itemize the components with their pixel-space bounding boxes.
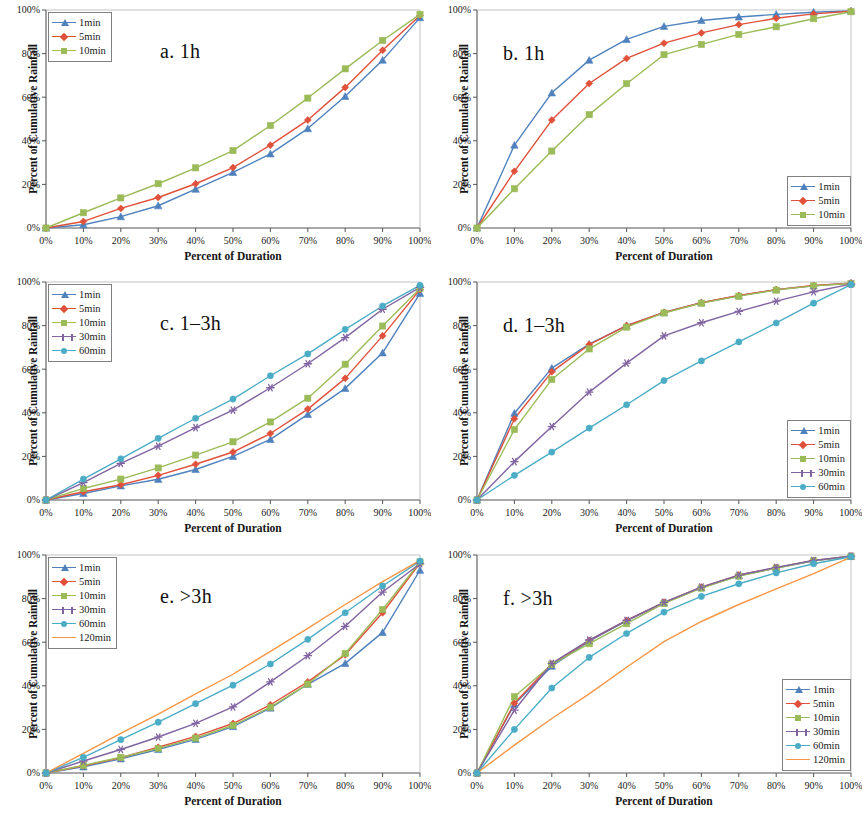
x-tick-label: 0%	[39, 235, 52, 246]
x-axis-label: Percent of Duration	[46, 522, 420, 534]
plot-area-d: 0%10%20%30%40%50%60%70%80%90%100%0%20%40…	[431, 272, 862, 544]
legend-item-30min[interactable]: 30min	[52, 330, 106, 344]
figure-panel-grid: 0%10%20%30%40%50%60%70%80%90%100%0%20%40…	[0, 0, 862, 817]
x-tick-label: 100%	[408, 780, 431, 791]
legend-item-5min[interactable]: 5min	[791, 438, 845, 452]
x-axis-label: Percent of Duration	[46, 250, 420, 262]
legend-label: 5min	[818, 439, 840, 451]
y-axis-label: Percent of Cumulative Rainfall	[458, 296, 470, 486]
x-tick-label: 100%	[408, 235, 431, 246]
legend-label: 60min	[79, 345, 106, 357]
x-tick-label: 60%	[692, 235, 710, 246]
legend-swatch-icon-1min	[52, 562, 76, 574]
legend-label: 60min	[79, 618, 106, 630]
legend-item-60min[interactable]: 60min	[52, 344, 106, 358]
legend-label: 10min	[79, 590, 106, 602]
legend-item-30min[interactable]: 30min	[791, 466, 845, 480]
legend-swatch-icon-1min	[791, 425, 815, 437]
panel-title-e: e. >3h	[160, 585, 212, 608]
legend-item-1min[interactable]: 1min	[786, 683, 845, 697]
y-axis-label: Percent of Cumulative Rainfall	[27, 24, 39, 214]
legend-item-5min[interactable]: 5min	[52, 575, 111, 589]
x-tick-label: 90%	[804, 507, 822, 518]
legend-swatch-icon-60min	[52, 618, 76, 630]
x-tick-label: 70%	[299, 235, 317, 246]
x-tick-label: 50%	[224, 507, 242, 518]
x-tick-label: 0%	[39, 780, 52, 791]
legend-label: 10min	[818, 453, 845, 465]
legend-label: 120min	[79, 632, 111, 644]
y-tick-label: 0%	[27, 767, 40, 778]
legend-label: 30min	[79, 604, 106, 616]
chart-panel-f: 0%10%20%30%40%50%60%70%80%90%100%0%20%40…	[431, 545, 862, 817]
legend-label: 30min	[818, 467, 845, 479]
x-tick-label: 60%	[261, 780, 279, 791]
legend-item-120min[interactable]: 120min	[52, 631, 111, 645]
x-tick-label: 80%	[336, 507, 354, 518]
legend-item-30min[interactable]: 30min	[52, 603, 111, 617]
legend-item-10min[interactable]: 10min	[791, 452, 845, 466]
y-axis-label: Percent of Cumulative Rainfall	[458, 569, 470, 759]
legend-item-10min[interactable]: 10min	[786, 711, 845, 725]
x-tick-label: 20%	[112, 507, 130, 518]
legend-swatch-icon-30min	[52, 331, 76, 343]
x-tick-label: 80%	[336, 780, 354, 791]
legend-item-10min[interactable]: 10min	[52, 316, 106, 330]
x-tick-label: 10%	[74, 235, 92, 246]
legend-item-1min[interactable]: 1min	[791, 180, 845, 194]
legend-swatch-icon-10min	[786, 712, 810, 724]
x-tick-label: 90%	[804, 780, 822, 791]
legend-label: 30min	[813, 726, 840, 738]
legend-item-120min[interactable]: 120min	[786, 753, 845, 767]
x-tick-label: 60%	[692, 507, 710, 518]
legend-item-5min[interactable]: 5min	[52, 30, 106, 44]
legend-item-60min[interactable]: 60min	[791, 480, 845, 494]
legend-item-5min[interactable]: 5min	[791, 194, 845, 208]
legend-c: 1min5min10min30min60min	[48, 284, 112, 362]
legend-item-5min[interactable]: 5min	[786, 697, 845, 711]
y-axis-label: Percent of Cumulative Rainfall	[27, 569, 39, 759]
legend-label: 10min	[813, 712, 840, 724]
legend-item-10min[interactable]: 10min	[52, 44, 106, 58]
legend-label: 5min	[813, 698, 835, 710]
x-tick-label: 0%	[470, 235, 483, 246]
x-tick-label: 90%	[373, 780, 391, 791]
legend-label: 1min	[79, 289, 101, 301]
legend-label: 60min	[818, 481, 845, 493]
legend-label: 30min	[79, 331, 106, 343]
legend-item-10min[interactable]: 10min	[52, 589, 111, 603]
legend-swatch-icon-120min	[52, 632, 76, 644]
legend-item-30min[interactable]: 30min	[786, 725, 845, 739]
x-axis-label: Percent of Duration	[477, 522, 851, 534]
legend-swatch-icon-5min	[52, 31, 76, 43]
legend-item-1min[interactable]: 1min	[791, 424, 845, 438]
x-tick-label: 50%	[655, 780, 673, 791]
x-tick-label: 50%	[224, 235, 242, 246]
legend-label: 1min	[79, 17, 101, 29]
x-tick-label: 10%	[74, 780, 92, 791]
x-tick-label: 60%	[261, 235, 279, 246]
panel-title-c: c. 1–3h	[160, 312, 221, 335]
legend-item-60min[interactable]: 60min	[52, 617, 111, 631]
legend-item-1min[interactable]: 1min	[52, 561, 111, 575]
chart-panel-d: 0%10%20%30%40%50%60%70%80%90%100%0%20%40…	[431, 272, 862, 544]
legend-swatch-icon-10min	[791, 453, 815, 465]
legend-label: 120min	[813, 754, 845, 766]
legend-swatch-icon-60min	[786, 740, 810, 752]
legend-item-10min[interactable]: 10min	[791, 208, 845, 222]
x-tick-label: 30%	[149, 780, 167, 791]
legend-item-5min[interactable]: 5min	[52, 302, 106, 316]
x-tick-label: 80%	[767, 235, 785, 246]
legend-item-60min[interactable]: 60min	[786, 739, 845, 753]
x-tick-label: 0%	[470, 507, 483, 518]
x-tick-label: 20%	[543, 780, 561, 791]
legend-item-1min[interactable]: 1min	[52, 288, 106, 302]
plot-area-b: 0%10%20%30%40%50%60%70%80%90%100%0%20%40…	[431, 0, 862, 272]
panel-title-a: a. 1h	[160, 40, 200, 63]
legend-label: 1min	[79, 562, 101, 574]
x-tick-label: 70%	[299, 507, 317, 518]
legend-item-1min[interactable]: 1min	[52, 16, 106, 30]
x-tick-label: 90%	[804, 235, 822, 246]
x-tick-label: 40%	[186, 235, 204, 246]
x-tick-label: 0%	[470, 780, 483, 791]
